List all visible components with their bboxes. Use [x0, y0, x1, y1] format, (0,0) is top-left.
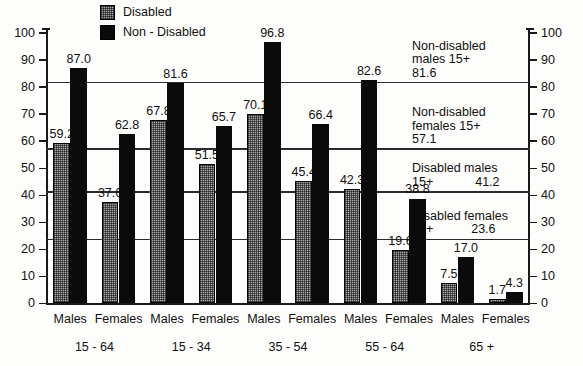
bar-disabled-4: [247, 114, 264, 304]
y-tick-label-right-60: 60: [541, 135, 555, 148]
plot-area: 0102030405060708090100010203040506070809…: [46, 33, 530, 305]
x-group-label-3: 55 - 64: [345, 341, 425, 354]
legend-label-disabled: Disabled: [123, 6, 172, 19]
y-tick-label-right-100: 100: [541, 27, 562, 40]
y-tick-right-20: [530, 249, 537, 250]
y-tick-left-100: [39, 32, 46, 33]
y-tick-right-10: [530, 276, 537, 277]
y-tick-label-left-80: 80: [21, 81, 35, 94]
x-axis-line: [46, 303, 530, 305]
y-tick-label-left-20: 20: [21, 243, 35, 256]
bar-disabled-9: [489, 299, 506, 304]
y-tick-right-0: [530, 303, 537, 304]
y-tick-right-30: [530, 222, 537, 223]
y-tick-right-80: [530, 86, 537, 87]
x-group-label-4: 65 +: [442, 341, 522, 354]
reference-note-line1: Non-disabled: [412, 106, 486, 120]
reference-line-non-disabled-males: [46, 82, 530, 83]
reference-note-non-disabled-females: Non-disabledfemales 15+57.1: [412, 106, 486, 147]
y-tick-left-30: [39, 222, 46, 223]
bar-value-label-non-disabled-5: 66.4: [305, 109, 337, 122]
x-group-label-1: 15 - 34: [151, 341, 231, 354]
y-tick-label-right-20: 20: [541, 243, 555, 256]
bar-value-label-non-disabled-2: 81.6: [160, 68, 192, 81]
bar-value-label-non-disabled-1: 62.8: [111, 119, 143, 132]
bar-non-disabled-3: [216, 126, 233, 304]
reference-note-disabled-females: Disabled females15+23.6: [412, 210, 508, 237]
bar-non-disabled-4: [264, 42, 281, 304]
y-tick-label-left-90: 90: [21, 54, 35, 67]
bar-value-label-non-disabled-9: 4.3: [498, 277, 530, 290]
bar-disabled-7: [392, 250, 409, 303]
x-group-label-0: 15 - 64: [54, 341, 134, 354]
legend-item-disabled: Disabled: [100, 2, 206, 22]
y-tick-right-60: [530, 140, 537, 141]
reference-note-value: 41.2: [475, 176, 499, 190]
bar-disabled-8: [441, 283, 458, 303]
reference-note-value: 23.6: [471, 223, 495, 237]
reference-note-value: 57.1: [412, 133, 486, 147]
reference-note-line2: males 15+: [412, 53, 486, 67]
y-tick-label-left-10: 10: [21, 270, 35, 283]
bar-non-disabled-7: [409, 199, 426, 304]
bar-non-disabled-0: [70, 68, 87, 303]
y-axis-right-cap: [526, 28, 534, 30]
bar-value-label-non-disabled-3: 65.7: [208, 111, 240, 124]
bar-non-disabled-6: [361, 80, 378, 303]
bar-disabled-0: [53, 143, 70, 303]
page-footer-artifact: [4, 357, 6, 364]
chart-page: Disabled Non - Disabled 0102030405060708…: [0, 0, 583, 366]
bar-value-label-non-disabled-6: 82.6: [353, 65, 385, 78]
y-tick-label-left-100: 100: [14, 27, 35, 40]
bar-non-disabled-2: [167, 83, 184, 304]
y-tick-label-right-80: 80: [541, 81, 555, 94]
bar-non-disabled-5: [312, 124, 329, 304]
reference-note-non-disabled-males: Non-disabledmales 15+81.6: [412, 40, 486, 81]
x-category-label-4-females: Females: [474, 313, 538, 326]
y-tick-label-right-90: 90: [541, 54, 555, 67]
y-tick-label-right-40: 40: [541, 189, 555, 202]
reference-note-line2: females 15+: [412, 120, 486, 134]
x-group-label-2: 35 - 54: [248, 341, 328, 354]
bar-non-disabled-1: [119, 134, 136, 304]
y-tick-left-0: [39, 303, 46, 304]
y-tick-left-40: [39, 195, 46, 196]
y-tick-right-70: [530, 113, 537, 114]
y-tick-label-right-70: 70: [541, 108, 555, 121]
y-tick-label-left-70: 70: [21, 108, 35, 121]
y-tick-label-right-30: 30: [541, 216, 555, 229]
bar-disabled-3: [199, 164, 216, 303]
y-tick-label-left-40: 40: [21, 189, 35, 202]
reference-note-line1: Disabled males: [412, 162, 500, 176]
y-axis-left-line: [46, 28, 48, 305]
y-tick-right-40: [530, 195, 537, 196]
legend-swatch-disabled-icon: [100, 5, 115, 20]
bar-disabled-1: [102, 202, 119, 304]
bar-non-disabled-8: [458, 257, 475, 303]
reference-note-value: 81.6: [412, 67, 486, 81]
y-tick-right-50: [530, 168, 537, 169]
reference-note-line1: Disabled females: [412, 210, 508, 224]
y-tick-left-70: [39, 113, 46, 114]
y-tick-label-left-60: 60: [21, 135, 35, 148]
y-tick-label-right-0: 0: [541, 297, 548, 310]
y-tick-label-left-50: 50: [21, 162, 35, 175]
y-tick-label-left-30: 30: [21, 216, 35, 229]
y-axis-right-line: [528, 28, 530, 305]
bar-disabled-5: [295, 181, 312, 304]
y-tick-left-80: [39, 86, 46, 87]
y-tick-left-50: [39, 168, 46, 169]
bar-value-label-non-disabled-7: 38.8: [402, 183, 434, 196]
bar-disabled-2: [150, 120, 167, 303]
y-tick-left-10: [39, 276, 46, 277]
bar-disabled-6: [344, 189, 361, 303]
y-tick-label-right-10: 10: [541, 270, 555, 283]
reference-note-line1: Non-disabled: [412, 40, 486, 54]
bar-value-label-non-disabled-0: 87.0: [63, 53, 95, 66]
y-tick-left-20: [39, 249, 46, 250]
y-tick-label-left-0: 0: [28, 297, 35, 310]
bar-value-label-non-disabled-8: 17.0: [450, 242, 482, 255]
y-tick-right-90: [530, 59, 537, 60]
bar-non-disabled-9: [506, 292, 523, 304]
y-tick-label-right-50: 50: [541, 162, 555, 175]
